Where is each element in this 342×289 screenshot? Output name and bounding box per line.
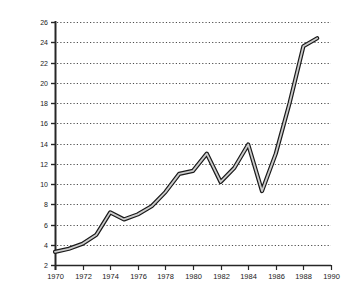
y-tick-label: 26 (40, 19, 48, 26)
x-tick-label: 1988 (295, 272, 312, 281)
x-tick-label: 1974 (102, 272, 119, 281)
x-tick-label: 1978 (157, 272, 174, 281)
y-tick-label: 18 (40, 100, 48, 107)
x-tick-label: 1986 (268, 272, 285, 281)
x-tick-label: 1984 (240, 272, 257, 281)
y-tick-label: 20 (40, 80, 48, 87)
y-tick-label: 14 (40, 141, 48, 148)
line-chart: 2468101214161820222426 19701972197419761… (0, 0, 342, 289)
y-tick-label: 10 (40, 181, 48, 188)
y-tick-label: 24 (40, 39, 48, 46)
y-tick-label: 6 (44, 222, 48, 229)
y-tick-label: 12 (40, 161, 48, 168)
x-tick-label: 1970 (47, 272, 64, 281)
y-tick-label: 22 (40, 60, 48, 67)
x-tick-label: 1980 (185, 272, 202, 281)
chart-container: BILLIONSOFDOLLARS 2468101214161820222426… (0, 0, 342, 289)
x-tick-label: 1990 (323, 272, 340, 281)
y-tick-label: 2 (44, 262, 48, 269)
y-tick-label: 16 (40, 120, 48, 127)
x-tick-label: 1972 (75, 272, 92, 281)
x-tick-label: 1976 (130, 272, 147, 281)
y-tick-label: 4 (44, 242, 48, 249)
x-tick-label: 1982 (213, 272, 230, 281)
y-tick-label: 8 (44, 201, 48, 208)
